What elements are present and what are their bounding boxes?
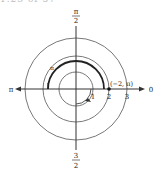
arrow-left-icon (15, 87, 21, 92)
label-bottom-den: 2 (74, 162, 78, 170)
label-bottom-num: 3 (74, 152, 78, 160)
label-top-den: 2 (74, 17, 78, 25)
tick-1: 1 (91, 93, 95, 101)
point-label: (−2, π) (110, 80, 134, 88)
tick-2: 2 (107, 93, 111, 101)
arc-marker-label: π (50, 64, 54, 71)
arrow-right-icon (139, 87, 145, 92)
label-right: 0 (149, 86, 153, 94)
polar-diagram: π 2 3 2 π 0 1 2 3 (−2, π) π (0, 0, 156, 174)
label-top-num: π (74, 8, 79, 16)
spiral-inner (76, 89, 91, 104)
tick-3: 3 (125, 93, 129, 101)
label-left: π (9, 86, 14, 94)
